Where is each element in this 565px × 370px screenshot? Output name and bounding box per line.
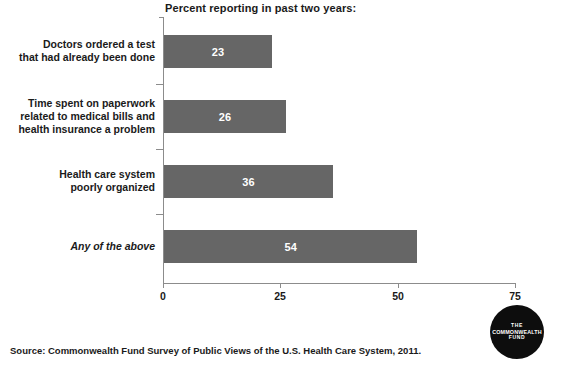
x-axis-line (163, 283, 516, 284)
bar-value-label: 23 (164, 35, 272, 68)
category-label-line: Doctors ordered a test (0, 38, 155, 51)
category-label-line: Time spent on paperwork (0, 97, 155, 110)
category-label: Any of the above (0, 240, 155, 253)
x-axis-tick (163, 283, 164, 288)
x-axis-tick-label: 50 (392, 290, 404, 302)
bar-system-poorly-organized[interactable]: 36 (164, 165, 333, 198)
y-axis-top-cap (159, 17, 164, 18)
x-axis-tick-label: 75 (509, 290, 521, 302)
bar-value-label: 54 (164, 230, 417, 263)
bar-value-label: 36 (164, 165, 333, 198)
source-note: Source: Commonwealth Fund Survey of Publ… (10, 345, 421, 356)
chart-figure: Percent reporting in past two years: Doc… (0, 0, 565, 370)
logo-line-fund: FUND (509, 335, 525, 341)
category-label: Health care system poorly organized (0, 168, 155, 194)
x-axis-tick (398, 283, 399, 288)
category-label-line: Any of the above (0, 240, 155, 253)
bar-value-label: 26 (164, 100, 286, 133)
bar-paperwork-problem[interactable]: 26 (164, 100, 286, 133)
category-label-line: Health care system (0, 168, 155, 181)
category-label-line: health insurance a problem (0, 123, 155, 136)
bar-any-of-the-above[interactable]: 54 (164, 230, 417, 263)
x-axis-tick (515, 283, 516, 288)
chart-title: Percent reporting in past two years: (165, 2, 356, 14)
y-axis-tick (156, 84, 164, 85)
y-axis-tick (156, 214, 164, 215)
bar-doctors-ordered-test[interactable]: 23 (164, 35, 272, 68)
category-label-line: that had already been done (0, 51, 155, 64)
category-label-line: poorly organized (0, 181, 155, 194)
category-label: Time spent on paperwork related to medic… (0, 97, 155, 136)
category-label: Doctors ordered a test that had already … (0, 38, 155, 64)
x-axis-tick-label: 0 (160, 290, 166, 302)
x-axis-tick (280, 283, 281, 288)
category-label-line: related to medical bills and (0, 110, 155, 123)
x-axis-tick-label: 25 (274, 290, 286, 302)
y-axis-tick (156, 149, 164, 150)
commonwealth-fund-logo: THE COMMONWEALTH FUND (490, 305, 544, 359)
